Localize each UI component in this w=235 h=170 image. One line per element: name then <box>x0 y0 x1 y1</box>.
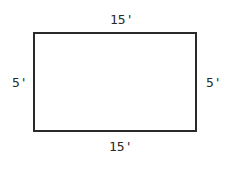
bottom-side-label: 15' <box>109 140 132 153</box>
top-side-label: 15' <box>110 13 133 26</box>
right-side-label: 5' <box>206 76 222 89</box>
rectangle-shape <box>33 32 197 132</box>
left-side-label: 5' <box>12 76 28 89</box>
